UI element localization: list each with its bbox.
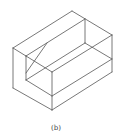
edge-line — [85, 43, 112, 59]
edge-line — [26, 80, 52, 96]
edge-line — [13, 88, 52, 110]
edge-line — [26, 19, 85, 56]
edge-line — [26, 56, 52, 72]
edge-line — [13, 11, 72, 48]
edge-line — [13, 48, 26, 56]
block-edges — [13, 11, 112, 110]
figure-caption: (b) — [0, 124, 112, 132]
isometric-block-drawing — [0, 0, 124, 137]
